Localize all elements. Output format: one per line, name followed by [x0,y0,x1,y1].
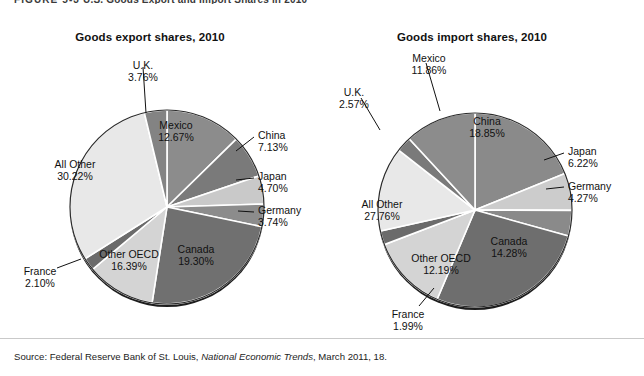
label-mexico-import: Mexico 11.86% [393,52,465,76]
label-japan-export: Japan 4.70% [258,170,324,194]
label-canada-export: Canada 19.30% [161,243,231,267]
label-japan-import: Japan 6.22% [568,145,634,169]
label-germany-export: Germany 3.74% [258,204,328,228]
label-all-other-import: All Other 27.76% [346,198,418,222]
label-uk-import: U.K. 2.57% [327,86,381,110]
source-suffix: , March 2011, 18. [313,351,387,362]
source-publication: National Economic Trends [201,351,313,362]
label-france-import: France 1.99% [382,308,434,332]
chart-panel-export: Goods export shares, 2010 [0,0,330,340]
label-germany-import: Germany 4.27% [568,180,638,204]
label-all-other-export: All Other 30.22% [39,158,111,182]
label-china-export: China 7.13% [258,129,324,153]
source-note: Source: Federal Reserve Bank of St. Loui… [14,351,387,362]
label-china-import: China 18.85% [453,115,521,139]
label-other-oecd-export: Other OECD 16.39% [96,248,162,272]
label-mexico-export: Mexico 12.67% [142,119,210,143]
label-france-export: France 2.10% [16,265,64,289]
label-canada-import: Canada 14.28% [474,235,544,259]
footer-divider [0,338,644,339]
source-prefix: Source: Federal Reserve Bank of St. Loui… [14,351,201,362]
label-other-oecd-import: Other OECD 12.19% [408,252,474,276]
figure-root: FIGURE 5-3 U.S. Goods Export and Import … [0,0,644,376]
chart-panel-import: Goods import shares, 2010 [322,0,644,340]
label-uk-export: U.K. 3.76% [110,59,176,83]
pie-chart-import [322,0,644,340]
